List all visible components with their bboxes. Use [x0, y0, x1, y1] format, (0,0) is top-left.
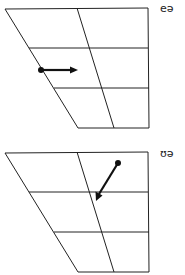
vowel-chart-ea: eə	[0, 0, 185, 137]
diphthong-label: ʊə	[160, 148, 174, 159]
vowel-chart-ua: ʊə	[0, 144, 185, 275]
vowel-quadrilateral	[0, 144, 185, 275]
central-line	[77, 152, 114, 272]
vowel-quadrilateral	[0, 0, 185, 137]
quadrilateral-outline	[5, 8, 149, 128]
diphthong-arrow	[96, 160, 122, 201]
quadrilateral-outline	[5, 152, 149, 272]
diphthong-label: eə	[160, 3, 174, 14]
central-line	[77, 8, 114, 128]
